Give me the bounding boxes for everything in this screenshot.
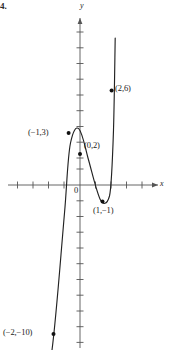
- point-marker-0-2: [78, 152, 82, 156]
- cubic-graph-plot: [0, 0, 172, 350]
- y-axis-group: [77, 18, 84, 348]
- point-marker-2-6: [110, 89, 114, 93]
- x-axis-label: x: [160, 180, 163, 188]
- annotation-point-neg1-3: (−1,3): [28, 128, 48, 137]
- annotation-point-neg2-neg10: (−2,−10): [3, 328, 32, 337]
- y-axis-arrowhead: [78, 18, 83, 24]
- annotation-point-0-2: (0,2): [84, 141, 100, 150]
- annotation-point-2-6: (2,6): [115, 84, 131, 93]
- x-axis-group: [8, 182, 158, 189]
- cubic-curve: [52, 38, 115, 350]
- point-marker-1-neg1: [101, 200, 105, 204]
- y-axis-label: y: [80, 2, 83, 10]
- origin-label: 0: [74, 186, 78, 195]
- graph-figure: 4.: [0, 0, 172, 350]
- point-marker-neg2-neg10: [52, 332, 56, 336]
- annotation-point-1-neg1: (1,−1): [93, 206, 113, 215]
- point-marker-neg1-3: [67, 131, 71, 135]
- x-axis-arrowhead: [152, 183, 158, 188]
